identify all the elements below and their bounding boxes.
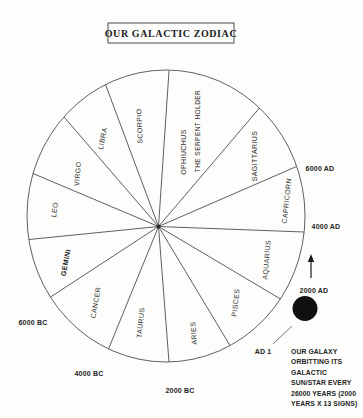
sign-label-cancer: CANCER [89,286,101,319]
galactic-zodiac-diagram: OUR GALACTIC ZODIAC OPHIUCHUS THE SERPEN… [0,0,363,418]
annotation-text-block: OUR GALAXY ORBITTING ITS GALACTIC SUN/ST… [291,348,357,408]
time-marker-6000-bc: 6000 BC [18,319,47,326]
sector-divider-lines [29,71,304,362]
sector-divider-line [159,108,260,227]
sign-label-gemini: GEMINI [60,248,72,276]
time-marker-ad-1: AD 1 [255,348,272,355]
sign-sublabel-serpent-holder: THE SERPENT HOLDER [194,90,201,173]
sign-label-libra: LIBRA [97,127,108,150]
sector-divider-line [106,85,159,227]
time-marker-2000-ad: 2000 AD [300,287,329,294]
figure-title: OUR GALACTIC ZODIAC [105,28,238,39]
sector-divider-line [159,71,170,227]
annotation-line: ORBITTING ITS [291,358,343,365]
sign-label-leo: LEO [50,201,59,217]
sun-star-dot [293,296,318,321]
sign-label-capricorn: CAPRICORN [281,178,293,224]
annotation-line: 26000 YEARS (2000 [291,390,356,398]
sign-label-scorpio: SCORPIO [135,108,143,143]
annotation-line: OUR GALAXY [291,348,338,355]
annotation-line: YEARS X 13 SIGNS) [291,400,357,408]
wheel-hub-dot [157,225,161,229]
sector-divider-line [33,174,159,227]
time-marker-6000-ad: 6000 AD [306,165,335,172]
time-marker-2000-bc: 2000 BC [165,387,194,394]
sign-label-ophiuchus: OPHIUCHUS [180,129,187,175]
sector-divider-line [29,227,159,240]
sign-label-aquarius: AQUARIUS [261,240,272,280]
ad1-leader-line [273,326,292,344]
sign-label-aries: ARIES [189,321,198,344]
sector-divider-line [109,227,159,350]
sign-label-virgo: VIRGO [73,161,82,186]
sign-label-pisces: PISCES [230,288,240,317]
up-arrow-icon [308,254,314,278]
sign-labels: OPHIUCHUS THE SERPENT HOLDER SAGITTARIUS… [50,90,292,345]
sector-divider-line [159,227,170,363]
annotation-line: SUN/STAR EVERY [291,379,352,386]
time-marker-4000-bc: 4000 BC [74,370,103,377]
time-marker-4000-ad: 4000 AD [312,223,341,230]
annotation-line: GALACTIC [291,369,327,376]
figure-galactic-zodiac: OUR GALACTIC ZODIAC OPHIUCHUS THE SERPEN… [0,0,363,418]
sign-label-sagittarius: SAGITTARIUS [251,131,258,182]
sector-divider-line [159,227,305,233]
sign-label-taurus: TAURUS [135,307,145,338]
